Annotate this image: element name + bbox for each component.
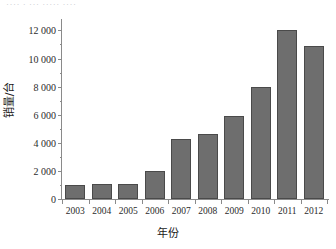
y-axis-tick-label: 2 000 [34, 165, 57, 176]
y-axis-minor-tick [60, 44, 62, 45]
bar-2006 [145, 171, 165, 199]
x-axis-tick [301, 200, 302, 204]
x-axis-tick-label: 2005 [119, 206, 138, 216]
x-axis-tick [115, 200, 116, 204]
chart-page: ···· · ··· ····· ···· 销量/台 年份 02 0004 00… [0, 0, 336, 249]
x-axis-tick-label: 2006 [145, 206, 164, 216]
x-axis-tick [142, 200, 143, 204]
x-axis-tick-label: 2008 [198, 206, 217, 216]
x-axis-tick-label: 2003 [66, 206, 85, 216]
y-axis-tick [58, 171, 62, 172]
x-axis-tick [62, 200, 63, 204]
x-axis-tick-label: 2010 [251, 206, 270, 216]
x-axis-tick-label: 2004 [92, 206, 111, 216]
y-axis-minor-tick [60, 129, 62, 130]
y-axis-title: 销量/台 [0, 70, 16, 130]
y-axis-minor-tick [60, 73, 62, 74]
x-axis-tick [168, 200, 169, 204]
bar-2005 [118, 184, 138, 199]
x-axis-title: 年份 [0, 224, 336, 240]
y-axis-minor-tick [60, 157, 62, 158]
bar-2012 [304, 46, 324, 199]
bar-2007 [171, 139, 191, 199]
y-axis-tick-label: 12 000 [29, 25, 57, 36]
y-axis-tick-label: 8 000 [34, 81, 57, 92]
y-axis-tick [58, 59, 62, 60]
y-axis-tick-label: 6 000 [34, 109, 57, 120]
x-axis-tick [221, 200, 222, 204]
y-axis-minor-tick [60, 30, 62, 31]
y-axis-tick-label: 0 [51, 194, 56, 205]
x-axis-tick-label: 2012 [304, 206, 323, 216]
bar-2010 [251, 87, 271, 199]
y-axis-minor-tick [60, 185, 62, 186]
x-axis-tick [195, 200, 196, 204]
y-axis-tick [58, 115, 62, 116]
x-axis-tick [274, 200, 275, 204]
y-axis-minor-tick [60, 101, 62, 102]
bar-2003 [65, 185, 85, 199]
x-axis-tick [89, 200, 90, 204]
y-axis-tick-label: 10 000 [29, 53, 57, 64]
cutoff-title-fragment: ···· · ··· ····· ···· [6, 0, 306, 6]
y-axis-tick [58, 143, 62, 144]
x-axis-tick-label: 2009 [225, 206, 244, 216]
x-axis-tick-label: 2011 [278, 206, 297, 216]
bar-2011 [277, 30, 297, 199]
bar-2008 [198, 134, 218, 199]
y-axis-tick-label: 4 000 [34, 137, 57, 148]
x-axis-tick-label: 2007 [172, 206, 191, 216]
bar-2009 [224, 116, 244, 199]
y-axis-tick [58, 87, 62, 88]
bar-2004 [92, 184, 112, 199]
x-axis-tick [248, 200, 249, 204]
x-axis-tick [327, 200, 328, 204]
